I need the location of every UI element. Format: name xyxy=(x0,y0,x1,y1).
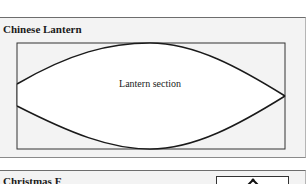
lantern-panel: Chinese Lantern Lantern section xyxy=(0,17,306,158)
lantern-section-label: Lantern section xyxy=(100,78,200,89)
panel-title: Christmas F xyxy=(3,175,61,184)
preview-box xyxy=(216,176,289,184)
up-arrow-icon xyxy=(217,177,290,184)
second-panel: Christmas F xyxy=(0,170,306,184)
